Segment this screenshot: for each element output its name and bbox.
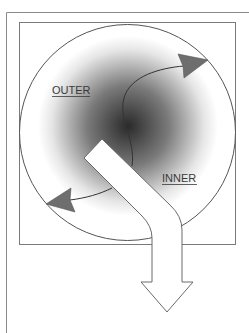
outer-label: OUTER: [52, 84, 91, 97]
svg-text:OUTER: OUTER: [52, 84, 91, 96]
inner-label: INNER: [162, 172, 197, 185]
svg-text:INNER: INNER: [162, 172, 196, 184]
diagram-canvas: OUTER INNER: [0, 0, 249, 333]
